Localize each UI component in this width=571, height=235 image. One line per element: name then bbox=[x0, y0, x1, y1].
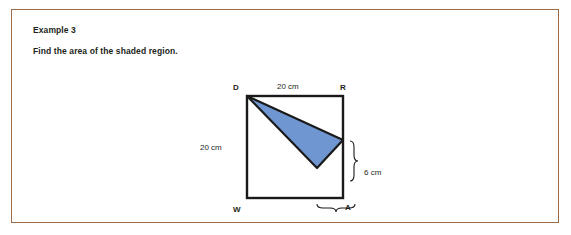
dimension-right-segment: 6 cm bbox=[364, 168, 382, 177]
vertex-label-d: D bbox=[233, 83, 239, 92]
content-frame: Example 3 Find the area of the shaded re… bbox=[11, 9, 559, 223]
brace-right bbox=[350, 141, 358, 181]
dimension-bottom-segment: 8 cm bbox=[321, 217, 339, 218]
example-heading: Example 3 bbox=[33, 25, 76, 35]
figure-svg: D R W A 20 cm 20 cm 6 cm 8 cm bbox=[192, 68, 412, 218]
vertex-label-w: W bbox=[233, 205, 241, 214]
geometry-figure: D R W A 20 cm 20 cm 6 cm 8 cm bbox=[192, 68, 412, 218]
dimension-top: 20 cm bbox=[277, 82, 299, 91]
page-root: Example 3 Find the area of the shaded re… bbox=[0, 0, 571, 235]
content-area: Example 3 Find the area of the shaded re… bbox=[12, 10, 558, 222]
shaded-triangle bbox=[247, 96, 343, 168]
dimension-left: 20 cm bbox=[200, 143, 222, 152]
problem-prompt: Find the area of the shaded region. bbox=[33, 46, 178, 56]
vertex-label-r: R bbox=[340, 83, 346, 92]
